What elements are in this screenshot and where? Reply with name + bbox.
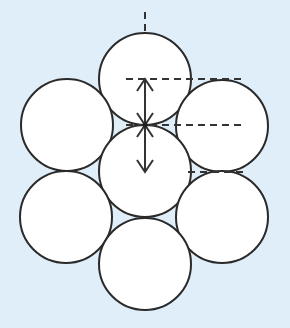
diagram-canvas [0,0,290,328]
circle-upper-left [21,79,113,171]
hexagonal-circle-packing-diagram [0,0,290,328]
circle-lower-left [20,171,112,263]
circle-lower-right [176,171,268,263]
contact-point [143,123,148,128]
circle-bottom [99,218,191,310]
